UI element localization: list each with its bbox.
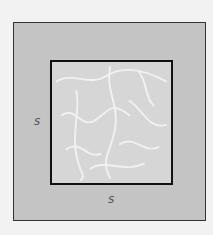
pool-inner-square bbox=[50, 60, 173, 185]
side-length-label-bottom: s bbox=[108, 192, 114, 206]
water-texture-icon bbox=[52, 62, 171, 183]
side-length-label-left: s bbox=[34, 114, 40, 128]
